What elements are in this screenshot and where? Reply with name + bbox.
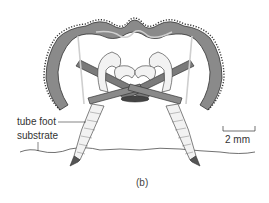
scale-bar: [223, 126, 255, 131]
panel-label: (b): [136, 178, 148, 188]
mouth: [121, 96, 149, 102]
tube-foot-label: tube foot: [17, 117, 56, 127]
substrate-line: [20, 148, 255, 154]
sea-urchin-diagram: [0, 0, 269, 203]
spine-rods: [76, 36, 194, 104]
substrate-label: substrate: [17, 131, 58, 141]
scale-bar-label: 2 mm: [225, 135, 250, 145]
tube-foot: [70, 104, 200, 166]
